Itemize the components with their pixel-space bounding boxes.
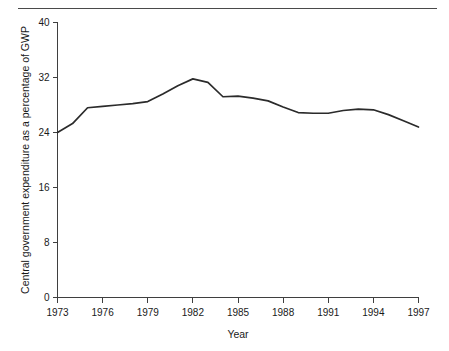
y-axis-ticks: 0816243240	[38, 17, 57, 303]
x-axis-title: Year	[227, 328, 249, 340]
x-tick-label: 1979	[137, 307, 160, 318]
line-chart-plot: 0816243240 19731976197919821985198819911…	[0, 0, 449, 351]
x-tick-label: 1985	[227, 307, 250, 318]
y-tick-label: 32	[38, 72, 50, 83]
y-tick-label: 0	[44, 292, 50, 303]
x-tick-label: 1973	[46, 307, 69, 318]
x-tick-label: 1991	[317, 307, 340, 318]
y-tick-label: 40	[38, 17, 50, 28]
x-tick-label: 1982	[182, 307, 205, 318]
chart-figure: 0816243240 19731976197919821985198819911…	[0, 0, 449, 351]
x-tick-label: 1976	[92, 307, 115, 318]
y-tick-label: 16	[38, 182, 50, 193]
y-tick-label: 24	[38, 127, 50, 138]
y-tick-label: 8	[44, 237, 50, 248]
x-tick-label: 1997	[407, 307, 430, 318]
x-tick-label: 1988	[272, 307, 295, 318]
x-tick-label: 1994	[362, 307, 385, 318]
data-series-line	[58, 79, 419, 133]
y-axis-title: Central government expenditure as a perc…	[19, 26, 31, 294]
x-axis-ticks: 197319761979198219851988199119941997	[46, 298, 430, 318]
